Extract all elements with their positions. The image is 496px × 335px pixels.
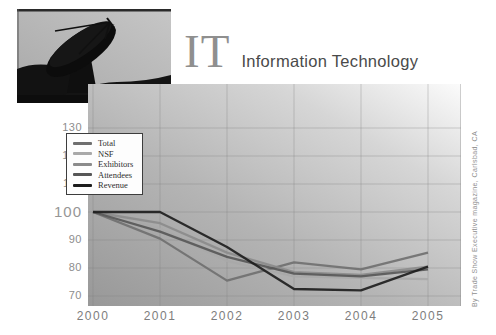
legend-swatch-revenue [73, 184, 92, 187]
x-axis-tick-2001: 2001 [133, 309, 187, 323]
title-abbreviation: IT [184, 26, 230, 76]
legend-item-nsf: NSF [73, 149, 137, 160]
legend-label-nsf: NSF [98, 149, 114, 159]
legend-swatch-exhibitors [73, 163, 92, 166]
y-axis-tick-100: 100 [40, 203, 82, 220]
y-axis-tick-80: 80 [40, 261, 82, 273]
y-axis-tick-90: 90 [40, 233, 82, 245]
y-axis-tick-130: 130 [40, 121, 82, 133]
y-axis-tick-70: 70 [40, 289, 82, 301]
x-axis-tick-2002: 2002 [200, 309, 254, 323]
source-credit: By Trade Show Executive magazine, Carlsb… [471, 109, 483, 329]
legend-label-exhibitors: Exhibitors [98, 159, 133, 169]
chart-plot-area [88, 84, 461, 306]
legend-swatch-attendees [73, 173, 92, 176]
legend-item-exhibitors: Exhibitors [73, 159, 137, 170]
title-text: Information Technology [241, 52, 418, 71]
x-axis-tick-2003: 2003 [267, 309, 321, 323]
legend-swatch-nsf [73, 152, 92, 155]
page-title: IT Information Technology [184, 26, 418, 76]
legend-item-revenue: Revenue [73, 180, 137, 191]
chart-legend: TotalNSFExhibitorsAttendeesRevenue [66, 133, 143, 195]
magazine-chart-page: IT Information Technology 13012011010090… [0, 0, 496, 335]
legend-label-revenue: Revenue [98, 180, 128, 190]
legend-item-attendees: Attendees [73, 170, 137, 181]
x-axis-tick-2004: 2004 [334, 309, 388, 323]
x-axis-tick-2005: 2005 [401, 309, 455, 323]
legend-item-total: Total [73, 138, 137, 149]
legend-swatch-total [73, 142, 92, 145]
legend-label-attendees: Attendees [98, 170, 132, 180]
legend-label-total: Total [98, 138, 115, 148]
x-axis-tick-2000: 2000 [66, 309, 120, 323]
